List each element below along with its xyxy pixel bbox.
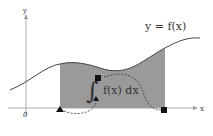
origin-label: 0 bbox=[23, 111, 28, 119]
upper-limit-square-marker-axis bbox=[161, 107, 167, 113]
upper-limit-square-marker bbox=[95, 75, 101, 81]
y-axis-label: y bbox=[22, 7, 27, 15]
x-axis-label: x bbox=[200, 105, 204, 113]
function-label: y = f(x) bbox=[144, 20, 186, 33]
integrand-label: f(x) dx bbox=[103, 84, 139, 97]
integral-diagram: ∫ f(x) dx y = f(x) y x 0 bbox=[0, 0, 213, 136]
x-axis-arrow-icon bbox=[193, 106, 198, 110]
